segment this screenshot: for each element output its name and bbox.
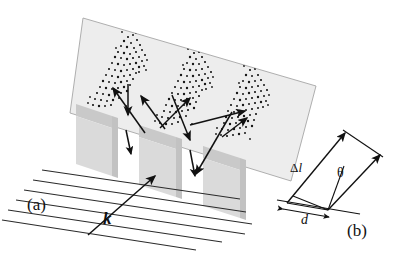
spacing-label: d <box>301 213 308 227</box>
slit-arrow-1 <box>126 130 131 154</box>
length-symbol: l <box>298 160 302 175</box>
figure-canvas <box>0 0 395 256</box>
wavevector-label: k <box>103 210 112 227</box>
panel-a-caption: (a) <box>27 196 46 213</box>
path-difference-label: Δl <box>290 161 302 174</box>
wavevector-k-arrow <box>88 176 155 235</box>
panel-b-caption: (b) <box>347 222 367 239</box>
outgoing-wavefront <box>343 130 383 157</box>
diffraction-grating-figure: (a) (b) k Δl θ d <box>0 0 395 256</box>
grating-baseline <box>277 200 360 214</box>
slit-arrow-2 <box>190 150 195 176</box>
angle-label: θ <box>337 166 344 180</box>
ray-right <box>328 155 380 210</box>
path-difference-leg-1 <box>287 203 328 210</box>
